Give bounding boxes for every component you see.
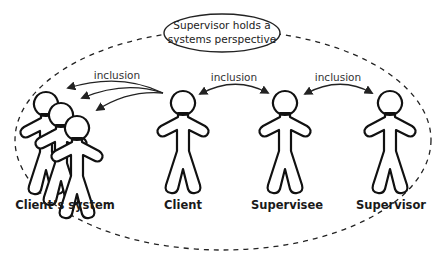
- label-clients-system: Client’s system: [15, 198, 115, 212]
- inclusion-label-2: inclusion: [211, 71, 257, 83]
- bubble-line-1: Supervisor holds a: [173, 19, 270, 31]
- bubble-line-2: systems perspective: [168, 33, 276, 45]
- inclusion-arrow-client-supervisee: [200, 84, 268, 94]
- label-client: Client: [164, 198, 202, 212]
- supervisee-figure: [259, 91, 310, 193]
- inclusion-label-3: inclusion: [315, 71, 361, 83]
- label-supervisor: Supervisor: [356, 198, 426, 212]
- supervisor-figure: [364, 91, 415, 193]
- client-figure: [157, 91, 208, 193]
- systems-diagram: Supervisor holds a systems perspective i…: [0, 0, 445, 259]
- supervisor-perspective-bubble: Supervisor holds a systems perspective: [164, 14, 280, 52]
- inclusion-arrow-client-system: [68, 81, 163, 110]
- inclusion-arrow-supervisee-supervisor: [305, 84, 372, 94]
- inclusion-label-1: inclusion: [94, 69, 140, 81]
- label-supervisee: Supervisee: [251, 198, 323, 212]
